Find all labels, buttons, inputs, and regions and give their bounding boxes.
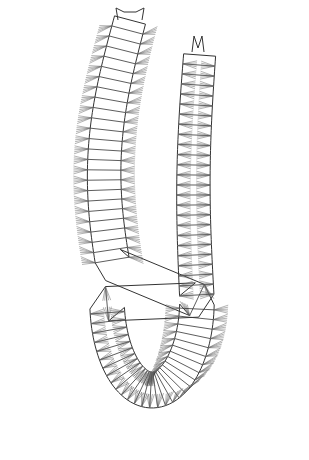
worm-illustration — [0, 0, 309, 460]
worm-drawing — [0, 0, 309, 460]
